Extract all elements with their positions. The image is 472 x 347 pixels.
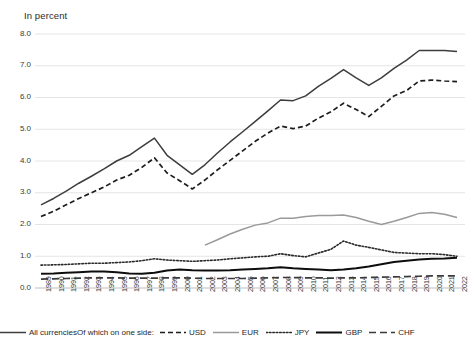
series-line-eur <box>205 212 457 245</box>
x-axis-tick-label: 1995 <box>120 276 129 292</box>
legend-swatch-all-currencies <box>0 328 26 337</box>
series-line-usd <box>41 80 457 217</box>
legend-label-chf: CHF <box>398 328 414 337</box>
x-axis-tick-label: 2003 <box>220 276 229 292</box>
legend-swatch-chf <box>369 328 395 337</box>
x-axis-tick-label: 2020 <box>435 276 444 292</box>
series-line-gbp <box>41 258 457 274</box>
x-axis-tick-label: 2007 <box>271 276 280 292</box>
x-axis-tick-label: 1994 <box>107 276 116 292</box>
x-axis-tick-label: 2011 <box>321 277 330 292</box>
x-axis-tick-label: 2014 <box>359 276 368 292</box>
x-axis-tick-label: 2001 <box>195 276 204 292</box>
gridlines <box>35 34 465 288</box>
y-axis-tick-label: 5.0 <box>11 124 31 133</box>
x-axis-tick-label: 2022 <box>460 276 469 292</box>
x-axis-tick-label: 2015 <box>372 276 381 292</box>
chart-legend: All currencies Of which on one side: USD… <box>0 322 472 342</box>
y-axis-tick-label: 7.0 <box>11 60 31 69</box>
y-axis-tick-label: 4.0 <box>11 156 31 165</box>
legend-swatch-usd <box>160 328 186 337</box>
x-axis-tick-label: 2019 <box>422 276 431 292</box>
x-axis-tick-label: 2017 <box>397 276 406 292</box>
plot-area <box>0 0 472 347</box>
legend-item-eur: EUR <box>213 328 259 337</box>
legend-prefix: Of which on one side: <box>77 328 154 337</box>
y-axis-tick-label: 1.0 <box>11 251 31 260</box>
legend-label-usd: USD <box>189 328 206 337</box>
x-axis-tick-label: 1998 <box>157 276 166 292</box>
x-axis-tick-label: 1993 <box>94 276 103 292</box>
x-axis-tick-label: 2006 <box>258 276 267 292</box>
x-axis-tick-label: 1999 <box>170 276 179 292</box>
x-axis-tick-label: 2009 <box>296 276 305 292</box>
chart-container: In percent 0.01.02.03.04.05.06.07.08.0 1… <box>0 0 472 347</box>
legend-label-all-currencies: All currencies <box>29 328 77 337</box>
legend-item-chf: CHF <box>369 328 414 337</box>
legend-item-gbp: GBP <box>316 328 362 337</box>
x-axis-tick-label: 2012 <box>334 276 343 292</box>
legend-label-jpy: JPY <box>295 328 310 337</box>
x-axis-tick-label: 1992 <box>82 276 91 292</box>
x-axis-tick-label: 2021 <box>447 276 456 292</box>
legend-label-gbp: GBP <box>345 328 362 337</box>
y-axis-tick-label: 6.0 <box>11 92 31 101</box>
y-axis-tick-label: 2.0 <box>11 219 31 228</box>
x-axis-tick-label: 2016 <box>384 276 393 292</box>
x-axis-tick-label: 1997 <box>145 276 154 292</box>
x-axis-tick-label: 2000 <box>183 276 192 292</box>
y-axis-tick-label: 3.0 <box>11 187 31 196</box>
series-line-all-currencies <box>41 51 457 205</box>
x-axis-tick-label: 1989 <box>44 276 53 292</box>
legend-swatch-jpy <box>266 328 292 337</box>
x-axis-tick-label: 2005 <box>246 276 255 292</box>
x-axis-tick-label: 1991 <box>69 276 78 292</box>
x-axis-tick-label: 2008 <box>284 276 293 292</box>
series-lines <box>41 51 457 280</box>
legend-swatch-gbp <box>316 328 342 337</box>
x-axis-tick-label: 2010 <box>309 276 318 292</box>
legend-item-usd: USD <box>160 328 206 337</box>
x-axis-tick-label: 1990 <box>57 276 66 292</box>
x-axis-tick-label: 1996 <box>132 276 141 292</box>
legend-group-all: All currencies <box>0 328 77 337</box>
y-axis-tick-label: 8.0 <box>11 29 31 38</box>
legend-swatch-eur <box>213 328 239 337</box>
x-axis-tick-label: 2002 <box>208 276 217 292</box>
x-axis-tick-label: 2018 <box>410 276 419 292</box>
legend-group-one-side: Of which on one side: USD EUR JPY GBP CH… <box>77 328 422 337</box>
legend-item-jpy: JPY <box>266 328 310 337</box>
x-axis-tick-label: 2013 <box>347 276 356 292</box>
y-axis-tick-label: 0.0 <box>11 283 31 292</box>
x-axis-tick-label: 2004 <box>233 276 242 292</box>
legend-label-eur: EUR <box>242 328 259 337</box>
